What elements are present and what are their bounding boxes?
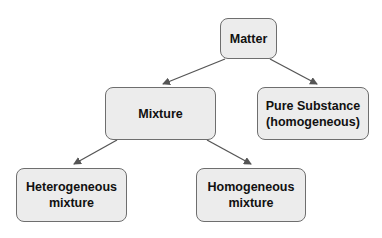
arrow-matter-to-mixture [163, 59, 225, 84]
node-heterogeneous-label: Heterogeneous mixture [26, 179, 117, 211]
node-matter: Matter [220, 18, 277, 59]
arrow-mixture-to-heterogeneous [74, 140, 117, 164]
node-mixture: Mixture [105, 87, 216, 140]
node-pure-substance: Pure Substance (homogeneous) [257, 87, 369, 140]
arrow-mixture-to-homogeneous [207, 140, 251, 164]
node-pure-substance-label: Pure Substance (homogeneous) [266, 98, 360, 130]
node-mixture-label: Mixture [138, 106, 182, 122]
node-matter-label: Matter [230, 31, 268, 47]
node-heterogeneous-mixture: Heterogeneous mixture [16, 168, 127, 222]
arrow-matter-to-pure-substance [270, 59, 317, 84]
node-homogeneous-mixture: Homogeneous mixture [196, 168, 306, 222]
node-homogeneous-label: Homogeneous mixture [208, 179, 295, 211]
